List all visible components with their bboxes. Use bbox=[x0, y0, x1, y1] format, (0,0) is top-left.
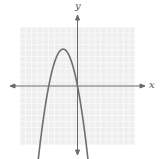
coordinate-plane bbox=[0, 0, 160, 159]
y-axis-label: y bbox=[75, 0, 81, 11]
x-axis-label: x bbox=[149, 79, 155, 90]
